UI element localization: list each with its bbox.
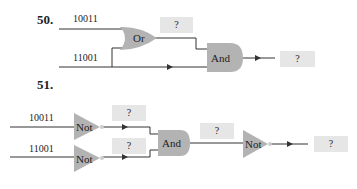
not-gate-b-label: Not — [76, 153, 93, 165]
p51-and-gate-label: And — [162, 137, 181, 149]
not-gate-c-bubble — [268, 142, 272, 146]
not-gate-c-label: Not — [245, 138, 262, 150]
not-gate-b-bubble — [100, 156, 104, 160]
circuit-diagram: Or And Not Not And Not — [0, 0, 357, 189]
not-gate-a-bubble — [100, 125, 104, 129]
or-gate-label: Or — [133, 32, 145, 44]
and-gate-label: And — [211, 52, 230, 64]
not-gate-a-label: Not — [76, 121, 93, 133]
